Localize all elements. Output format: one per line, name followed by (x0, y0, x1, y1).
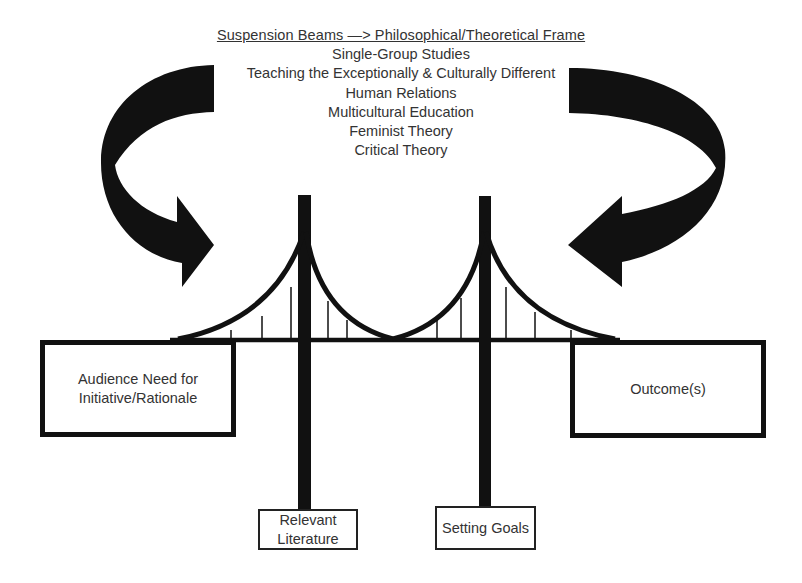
setting-goals-label: Setting Goals (442, 519, 529, 538)
outcomes-box: Outcome(s) (570, 340, 766, 438)
rationale-line1: Audience Need for (78, 370, 198, 389)
suspension-bridge-icon (170, 195, 620, 510)
rationale-box: Audience Need for Initiative/Rationale (40, 340, 236, 437)
literature-line1: Relevant (277, 511, 338, 530)
rationale-line2: Initiative/Rationale (78, 389, 198, 408)
curved-arrow-right-icon (101, 65, 214, 287)
setting-goals-box: Setting Goals (435, 506, 536, 550)
literature-line2: Literature (277, 530, 338, 549)
relevant-literature-box: Relevant Literature (258, 509, 358, 550)
outcomes-label: Outcome(s) (630, 380, 706, 399)
curved-arrow-left-icon (568, 68, 725, 287)
